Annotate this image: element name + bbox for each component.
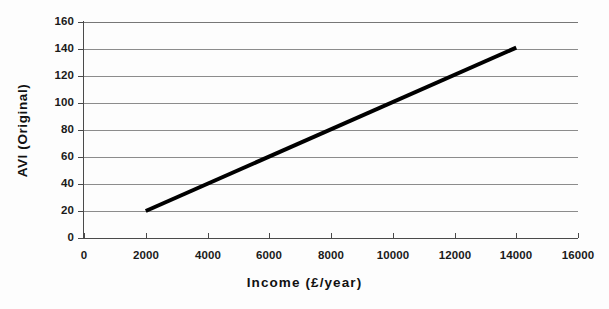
- y-tick-mark: [78, 157, 83, 158]
- x-tick-label: 10000: [377, 249, 409, 261]
- y-tick-mark: [78, 211, 83, 212]
- y-tick-mark: [78, 22, 83, 23]
- y-tick-label: 80: [34, 123, 74, 135]
- x-tick-label: 6000: [256, 249, 282, 261]
- data-line-avi-original: [146, 48, 517, 211]
- y-tick-mark: [78, 103, 83, 104]
- chart-figure: AVI (Original) 020406080100120140160 020…: [0, 0, 609, 309]
- y-tick-mark: [78, 49, 83, 50]
- y-tick-mark: [78, 76, 83, 77]
- x-tick-label: 2000: [133, 249, 159, 261]
- y-tick-label: 0: [34, 231, 74, 243]
- y-tick-mark: [78, 130, 83, 131]
- y-tick-label: 120: [34, 69, 74, 81]
- y-tick-label: 20: [34, 204, 74, 216]
- x-tick-label: 16000: [562, 249, 594, 261]
- y-tick-mark: [78, 238, 83, 239]
- x-tick-label: 4000: [195, 249, 221, 261]
- x-tick-label: 0: [81, 249, 88, 261]
- series-layer: [84, 22, 578, 238]
- x-tick-label: 14000: [500, 249, 532, 261]
- x-tick-label: 12000: [439, 249, 471, 261]
- y-tick-label: 40: [34, 177, 74, 189]
- gridline: [84, 238, 578, 239]
- x-tick-label: 8000: [318, 249, 344, 261]
- y-axis-title: AVI (Original): [16, 83, 31, 177]
- y-tick-label: 60: [34, 150, 74, 162]
- y-tick-mark: [78, 184, 83, 185]
- y-tick-label: 140: [34, 42, 74, 54]
- y-tick-label: 100: [34, 96, 74, 108]
- plot-area: [84, 22, 578, 238]
- y-tick-label: 160: [34, 15, 74, 27]
- x-axis-title: Income (£/year): [0, 275, 609, 290]
- x-tick-mark: [578, 233, 579, 238]
